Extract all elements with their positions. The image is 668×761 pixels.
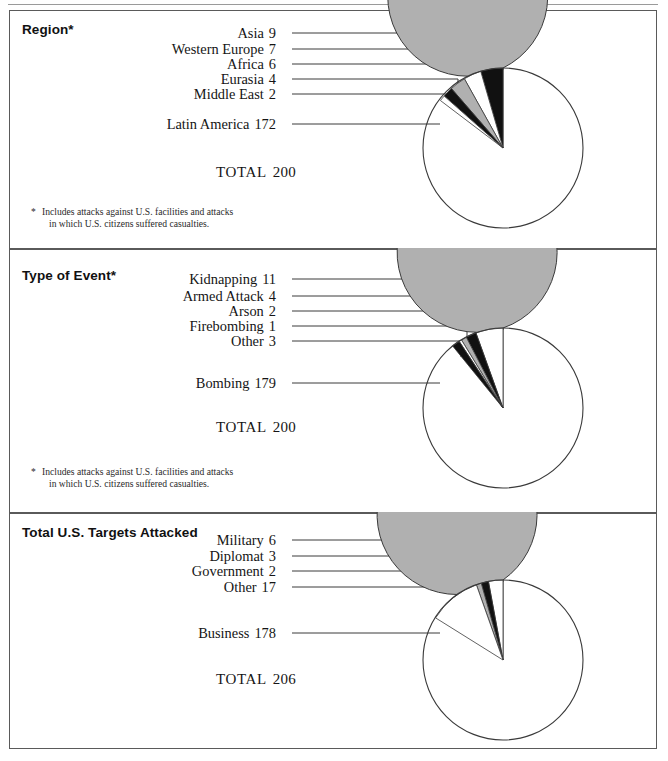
leader-line-other (292, 341, 461, 357)
pie-svg-type-of-event (0, 248, 668, 512)
pie-slice-bombing (397, 248, 557, 408)
pie-chart-figure: Region* Asia9 Western Europe7 Africa6 Eu… (0, 0, 668, 761)
leader-line-firebombing (292, 326, 467, 353)
pie-slice-latin-america (388, 0, 548, 148)
leader-line-middle-east (292, 94, 450, 106)
pie-slice-business (377, 512, 537, 660)
leader-line-eurasia (292, 79, 458, 101)
pie-svg-region (0, 0, 668, 248)
pie-svg-total-us-targets (0, 512, 668, 761)
